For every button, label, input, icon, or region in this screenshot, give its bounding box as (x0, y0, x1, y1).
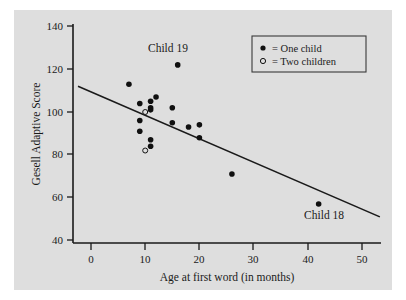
data-point (197, 135, 203, 141)
x-tick-label-20: 20 (194, 253, 206, 265)
data-point (148, 99, 154, 105)
legend-label-one-child: = One child (272, 43, 322, 54)
x-tick-group: 0 10 20 30 40 50 (88, 243, 368, 265)
legend-label-two-children: = Two children (272, 56, 337, 67)
data-point (143, 110, 148, 115)
data-point (137, 128, 143, 134)
data-point (126, 81, 132, 87)
data-point (148, 143, 154, 149)
data-point (197, 122, 203, 128)
data-point (153, 94, 159, 100)
data-point (170, 105, 176, 111)
data-point (148, 137, 154, 143)
y-tick-label-140: 140 (47, 20, 64, 32)
legend: = One child = Two children (252, 36, 366, 72)
x-tick-label-40: 40 (303, 253, 315, 265)
x-axis-title: Age at first word (in months) (160, 271, 295, 284)
chart-canvas: 140 120 100 80 60 40 0 10 20 30 40 50 Ag… (0, 0, 406, 300)
scatter-plot-figure: 140 120 100 80 60 40 0 10 20 30 40 50 Ag… (0, 0, 406, 300)
annotation-label: Child 19 (148, 42, 188, 54)
y-axis-title: Gesell Adaptive Score (30, 83, 43, 186)
y-tick-label-100: 100 (47, 106, 64, 118)
data-points-layer (126, 62, 321, 207)
y-tick-label-60: 60 (52, 191, 64, 203)
y-tick-label-40: 40 (52, 234, 64, 246)
data-point (316, 201, 322, 207)
x-tick-label-30: 30 (248, 253, 260, 265)
data-point (170, 120, 176, 126)
legend-marker-open-circle-icon (260, 58, 265, 63)
data-point (148, 107, 154, 113)
data-point (137, 118, 143, 124)
y-tick-label-120: 120 (47, 63, 64, 75)
x-tick-label-50: 50 (357, 253, 369, 265)
annotation-label: Child 18 (304, 209, 344, 221)
data-point (175, 62, 181, 68)
data-point (137, 101, 143, 107)
data-point (186, 124, 192, 130)
data-point (229, 171, 235, 177)
x-tick-label-10: 10 (140, 253, 152, 265)
regression-line (78, 86, 380, 217)
y-tick-label-80: 80 (52, 148, 64, 160)
legend-marker-filled-circle-icon (260, 45, 265, 50)
x-tick-label-0: 0 (88, 253, 94, 265)
y-tick-group: 140 120 100 80 60 40 (47, 20, 74, 246)
data-point (143, 148, 148, 153)
